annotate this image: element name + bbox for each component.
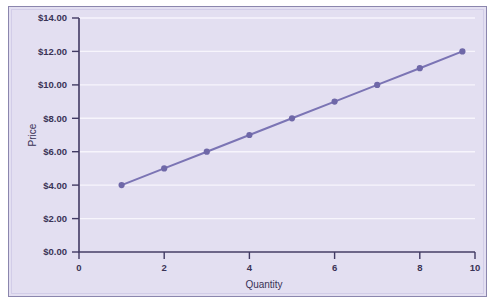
x-tick-label: 8 xyxy=(417,262,422,273)
x-axis-tick-labels: 0 2 4 6 8 10 xyxy=(76,262,480,273)
x-tick-label: 0 xyxy=(76,262,81,273)
data-point xyxy=(332,99,338,105)
data-point xyxy=(374,82,380,88)
x-tick-label: 4 xyxy=(247,262,253,273)
x-tick-label: 10 xyxy=(470,262,481,273)
y-tick-label: $12.00 xyxy=(38,46,67,57)
data-point xyxy=(204,149,210,155)
x-tick-label: 2 xyxy=(162,262,167,273)
data-point xyxy=(417,65,423,71)
y-tick-label: $4.00 xyxy=(43,180,67,191)
y-tick-label: $6.00 xyxy=(43,146,67,157)
y-axis-title: Price xyxy=(27,123,38,146)
y-tick-label: $0.00 xyxy=(43,246,67,257)
y-tick-label: $10.00 xyxy=(38,79,67,90)
y-tick-label: $2.00 xyxy=(43,213,67,224)
data-point xyxy=(459,48,465,54)
y-tick-label: $14.00 xyxy=(38,12,67,23)
x-axis-title: Quantity xyxy=(245,279,282,290)
y-axis-ticks xyxy=(72,18,79,252)
chart-figure: $0.00 $2.00 $4.00 $6.00 $8.00 $10.00 $12… xyxy=(8,6,487,297)
x-tick-label: 6 xyxy=(332,262,337,273)
y-axis-tick-labels: $0.00 $2.00 $4.00 $6.00 $8.00 $10.00 $12… xyxy=(38,12,67,257)
data-point xyxy=(246,132,252,138)
data-point xyxy=(161,165,167,171)
data-point xyxy=(119,182,125,188)
price-quantity-line-chart: $0.00 $2.00 $4.00 $6.00 $8.00 $10.00 $12… xyxy=(9,7,486,296)
gridlines xyxy=(79,18,475,252)
axes xyxy=(79,18,475,252)
data-point xyxy=(289,115,295,121)
y-tick-label: $8.00 xyxy=(43,113,67,124)
x-axis-ticks xyxy=(79,252,475,259)
